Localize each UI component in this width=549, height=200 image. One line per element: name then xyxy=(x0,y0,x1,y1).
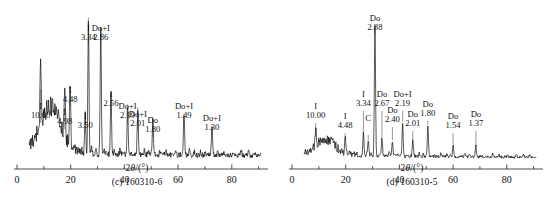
xrd-panel-d: 020406080 I10.00I4.48I3.34CDo2.88Do2.67D… xyxy=(275,0,549,200)
peak-d-spacing: 1.80 xyxy=(131,125,175,134)
peak-label: Do+I1.30 xyxy=(190,114,234,132)
peak-d-spacing: 3.50 xyxy=(63,121,107,130)
peak-label: I3.50 xyxy=(63,112,107,130)
panel-caption-d: (d) 160310-5 xyxy=(275,177,549,187)
peak-d-spacing: 2.86 xyxy=(79,33,123,42)
peak-label: I4.48 xyxy=(48,86,92,104)
peak-label: Do2.88 xyxy=(353,14,397,32)
peak-label: Do+I2.86 xyxy=(79,24,123,42)
peak-d-spacing: 2.01 xyxy=(391,119,435,128)
x-axis-title-c: 2θ/(°) xyxy=(0,163,274,173)
peak-label: Do1.37 xyxy=(454,110,498,128)
panel-caption-c: (c) 160310-6 xyxy=(0,177,274,187)
xrd-figure: 020406080 I10.00I4.98I4.48I3.50I3.34Do+I… xyxy=(0,0,549,200)
peak-d-spacing: 1.30 xyxy=(190,123,234,132)
x-axis-title-post: /(°) xyxy=(410,163,423,173)
x-axis-title-post: /(°) xyxy=(135,163,148,173)
peak-d-spacing: 1.37 xyxy=(454,119,498,128)
x-axis-title-d: 2θ/(°) xyxy=(275,163,549,173)
xrd-panel-c: 020406080 I10.00I4.98I4.48I3.50I3.34Do+I… xyxy=(0,0,274,200)
peak-d-spacing: 2.88 xyxy=(353,23,397,32)
peak-d-spacing: 4.48 xyxy=(48,95,92,104)
